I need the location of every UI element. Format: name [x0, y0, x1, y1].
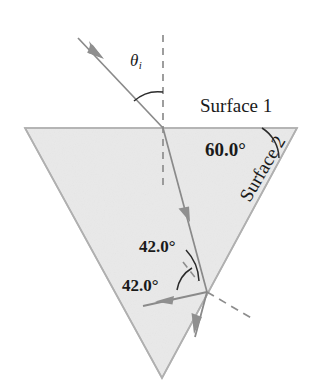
arc-theta-incident	[134, 92, 163, 101]
normal-line-surface2	[207, 292, 253, 319]
theta-symbol: θ	[130, 51, 138, 70]
theta-subscript: i	[139, 59, 142, 71]
surface-1-label: Surface 1	[200, 96, 272, 115]
apex-angle-label: 60.0°	[205, 140, 246, 159]
internal-reflection-angle-label: 42.0°	[122, 277, 159, 294]
theta-incident-label: θi	[130, 52, 142, 71]
physics-diagram: Surface 1 60.0° Surface 2 θi 42.0° 42.0°	[0, 0, 314, 391]
internal-incidence-angle-label: 42.0°	[139, 238, 176, 255]
diagram-canvas	[0, 0, 314, 391]
